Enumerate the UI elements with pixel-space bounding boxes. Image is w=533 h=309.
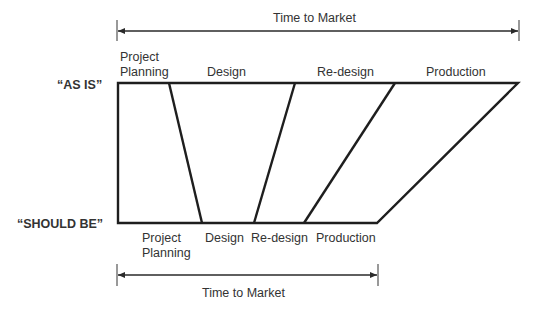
time-to-market-diagram [0, 0, 533, 309]
should-be-phase-redesign: Re-design [251, 231, 308, 246]
as-is-phase-redesign: Re-design [317, 65, 374, 80]
as-is-row-label: “AS IS” [57, 78, 102, 92]
phase-label-line: Project [142, 231, 191, 246]
should-be-phase-design: Design [205, 231, 244, 246]
as-is-phase-project-planning: Project Planning [120, 50, 169, 80]
should-be-phase-production: Production [316, 231, 376, 246]
divider-redesign-production [304, 83, 395, 223]
bottom-time-span-arrow [117, 264, 378, 286]
bottom-time-to-market-label: Time to Market [202, 286, 285, 301]
divider-design-redesign [254, 83, 295, 223]
should-be-row-label: “SHOULD BE” [17, 217, 103, 231]
phase-label-line: Planning [120, 65, 169, 80]
phase-label-line: Planning [142, 246, 191, 261]
divider-planning-design [169, 83, 202, 223]
as-is-phase-design: Design [207, 65, 246, 80]
process-shape [118, 83, 518, 223]
phase-label-line: Project [120, 50, 169, 65]
should-be-phase-project-planning: Project Planning [142, 231, 191, 261]
top-time-to-market-label: Time to Market [273, 11, 356, 26]
as-is-phase-production: Production [426, 65, 486, 80]
